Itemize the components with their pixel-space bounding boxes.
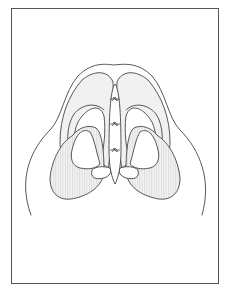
nasal-base-diagram (0, 0, 229, 295)
right-medial-footplate (119, 167, 138, 179)
left-medial-footplate (92, 167, 111, 179)
